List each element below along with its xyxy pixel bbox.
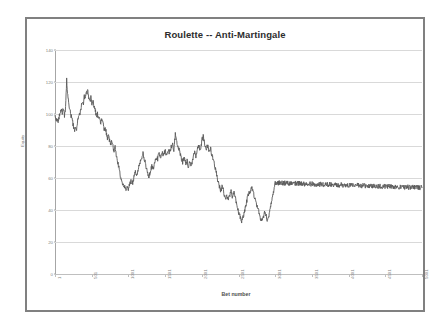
x-tick-label: 2501 — [240, 269, 245, 279]
chart-figure: Roulette -- Anti-Martingale 020406080100… — [25, 17, 425, 312]
y-tick-label: 40 — [31, 208, 53, 213]
x-tick-mark — [312, 274, 313, 277]
y-tick-label: 60 — [31, 176, 53, 181]
x-axis-title-text: Bet number — [200, 291, 251, 297]
y-tick-label: 20 — [31, 240, 53, 245]
x-tick-label: 1 — [57, 277, 62, 279]
equity-line-series — [55, 50, 422, 274]
x-tick-label: 1001 — [130, 269, 135, 279]
x-tick-label: 1501 — [167, 269, 172, 279]
y-axis-title: Equity — [20, 135, 25, 147]
chart-title: Roulette -- Anti-Martingale — [27, 29, 423, 40]
x-tick-label: 3001 — [277, 269, 282, 279]
x-tick-label: 2001 — [203, 269, 208, 279]
x-tick-mark — [165, 274, 166, 277]
y-tick-label: 0 — [31, 272, 53, 277]
y-tick-label: 140 — [31, 48, 53, 53]
x-tick-label: 3501 — [314, 269, 319, 279]
x-tick-label: 5001 — [424, 269, 429, 279]
x-tick-label: 4001 — [350, 269, 355, 279]
x-axis-tick-labels: 1501100115012001250130013501400145015001 — [55, 274, 422, 304]
x-tick-label: 4501 — [387, 269, 392, 279]
x-tick-mark — [422, 274, 423, 277]
x-tick-mark — [55, 274, 56, 277]
y-tick-label: 80 — [31, 144, 53, 149]
x-axis-title: Bet number — [27, 291, 423, 297]
y-tick-label: 120 — [31, 80, 53, 85]
y-tick-label: 100 — [31, 112, 53, 117]
equity-polyline — [55, 78, 422, 223]
y-axis-tick-labels: 020406080100120140 — [27, 50, 53, 274]
x-tick-label: 501 — [93, 272, 98, 279]
plot-area — [55, 50, 422, 274]
